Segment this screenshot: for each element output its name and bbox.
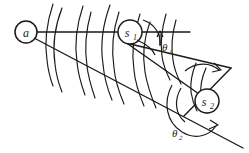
scattering-diagram: a s 1 s 2 θ 1 θ 2 [0, 0, 249, 153]
theta1-label: θ [162, 41, 168, 53]
theta2-subscript: 2 [179, 134, 183, 142]
wavefront-arc-4 [86, 12, 95, 98]
wavefront-arc-8 [144, 22, 156, 108]
node-s2-label: s [202, 95, 207, 109]
wavefront-arc-10 [172, 20, 181, 84]
theta2-arc-top [185, 64, 219, 71]
theta1-subscript: 1 [169, 48, 173, 56]
node-a-label: a [23, 26, 29, 40]
node-s1-label: s [125, 26, 130, 40]
node-s2-circle [195, 89, 219, 113]
wavefront-arc-3 [76, 6, 85, 95]
node-s1-subscript: 1 [133, 33, 137, 42]
node-s2-subscript: 2 [210, 102, 214, 111]
theta2-label: θ [172, 127, 178, 139]
wavefront-arc-5 [102, 5, 112, 100]
node-a[interactable]: a [15, 21, 37, 43]
theta1-arc [143, 20, 160, 46]
theta2-arrow-head [209, 120, 218, 129]
node-s2[interactable]: s 2 [195, 89, 219, 113]
